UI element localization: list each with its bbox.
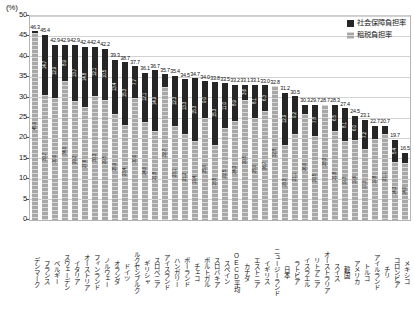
bar-column[interactable]: 45.946.3 [32,16,38,220]
bar-column[interactable]: 21.120.7 [382,16,388,220]
bar-column[interactable]: 19.38.127.4 [342,16,348,220]
bar-column[interactable]: 32.832.8 [272,16,278,220]
bar-segment-social [382,126,388,134]
bar-segment-tax-value: 30.3 [93,154,98,162]
bar-column[interactable]: 24.012.136.1 [142,16,148,220]
bar-stack: 28.3 [322,105,328,220]
bar-segment-social-value: 6.0 [353,125,358,131]
bar-segment-social-value: 12.9 [53,67,58,75]
bar-segment-social: 6.0 [352,116,358,140]
bar-segment-tax: 29.5 [102,100,108,220]
bar-column[interactable]: 30.312.142.4 [92,16,98,220]
bar-segment-social-value: 12.9 [283,115,288,123]
bar-segment-tax: 19.6 [352,140,358,220]
bar-segment-social: 13.3 [182,79,188,133]
bar-column[interactable]: 21.213.334.5 [182,16,188,220]
x-axis-label: スロベニア [149,224,159,320]
bar-column[interactable]: 17.37.223.1 [362,16,368,220]
bar-column[interactable]: 14.35.419.7 [392,16,398,220]
bar-segment-social-value: 14.9 [153,97,158,105]
bar-segment-social: 15.3 [192,78,198,140]
x-axis-label: コロンビア [389,224,399,320]
bar-segment-tax: 18.3 [282,145,288,220]
bar-column[interactable]: 20.57.829.7 [312,16,318,220]
bar-segment-social: 6.5 [332,105,338,132]
y-axis-tick-label: 30 [5,93,27,101]
bar-column[interactable]: 25.08.133.1 [252,16,258,220]
x-axis-label: OECD平均 [229,224,239,320]
bar-segment-tax-value: 26.0 [303,163,308,171]
y-axis-tick-label: 45 [5,31,27,39]
bar-total-value: 28.7 [320,98,330,104]
bar-segment-tax-value: 22.5 [223,170,228,178]
bar-column[interactable]: 29.510.542.2 [102,16,108,220]
bar-stack: 29.510.5 [102,49,108,220]
legend-label-social: 社会保障負担率 [357,18,406,28]
bar-segment-tax-value: 19.6 [353,176,358,184]
bar-segment-social: 7.2 [362,120,368,149]
bar-column[interactable]: 29.213.742.9 [72,16,78,220]
bar-segment-tax-value: 21.8 [333,171,338,179]
bar-column[interactable]: 27.614.842.4 [82,16,88,220]
bar-segment-social-value: 10.5 [103,70,108,78]
bar-segment-tax-value: 25.0 [203,165,208,173]
bar-column[interactable]: 32.735.7 [162,16,168,220]
bar-segment-tax-value: 45.9 [33,122,38,130]
bar-column[interactable]: 23.112.335.4 [172,16,178,220]
bar-total-value: 22.7 [370,119,380,125]
bar-segment-social: 7.8 [312,105,318,137]
bar-column[interactable]: 29.53.633.1 [242,16,248,220]
x-axis-label: イギリス [259,224,269,320]
bar-segment-tax: 30.0 [132,98,138,220]
bar-column[interactable]: 28.328.7 [322,16,328,220]
bar-column[interactable]: 34.08.942.9 [62,16,68,220]
bar-column[interactable]: 18.312.931.2 [282,16,288,220]
bar-segment-social: 10.5 [102,49,108,100]
bar-segment-tax: 19.3 [342,141,348,220]
x-axis-label: ポーランド [179,224,189,320]
bar-stack: 34.08.9 [62,45,68,220]
bar-segment-tax: 17.3 [362,149,368,220]
bar-column[interactable]: 14.016.5 [402,16,408,220]
bar-total-value: 33.1 [240,78,250,84]
bar-column[interactable]: 30.714.745.4 [42,16,48,220]
bar-total-value: 20.7 [380,119,390,125]
bar-column[interactable]: 24.38.933.2 [232,16,238,220]
bar-column[interactable]: 30.07.737.7 [132,16,138,220]
bar-segment-tax-value: 23.4 [123,168,128,176]
bar-column[interactable]: 30.012.942.9 [52,16,58,220]
bar-column[interactable]: 21.19.230.5 [292,16,298,220]
bar-segment-tax-value: 23.1 [173,169,178,177]
bar-segment-tax-value: 18.5 [213,178,218,186]
bar-segment-tax-value: 19.4 [193,176,198,184]
bar-column[interactable]: 19.415.334.7 [192,16,198,220]
bar-column[interactable]: 26.76.333.0 [262,16,268,220]
bar-column[interactable]: 26.030.3 [302,16,308,220]
bar-stack: 30.012.9 [52,45,58,220]
bar-column[interactable]: 18.515.333.8 [212,16,218,220]
y-axis-tick-mark [26,178,29,179]
bar-segment-social-value: 14.8 [83,73,88,81]
bar-segment-tax-value: 24.3 [233,166,238,174]
bar-total-value: 30.3 [300,98,310,104]
bar-segment-social-value: 12.1 [143,93,148,101]
bar-column[interactable]: 21.86.528.3 [332,16,338,220]
bar-column[interactable]: 22.511.033.5 [222,16,228,220]
bar-column[interactable]: 21.814.936.7 [152,16,158,220]
bar-segment-social-value: 7.7 [133,79,138,85]
bar-segment-social: 14.8 [82,47,88,107]
x-axis-label: ベルギー [49,224,59,320]
bar-segment-tax: 29.2 [72,101,78,220]
bar-segment-tax-value: 30.0 [53,155,58,163]
bar-column[interactable]: 19.822.7 [372,16,378,220]
bar-column[interactable]: 23.415.338.7 [122,16,128,220]
x-axis-label: ニュージーランド [269,224,279,320]
bar-column[interactable]: 25.09.034.0 [202,16,208,220]
bar-stack: 18.515.3 [212,82,218,220]
y-axis-tick-mark [26,56,29,57]
bar-column[interactable]: 19.66.024.5 [352,16,358,220]
y-axis-tick-label: 10 [5,174,27,182]
bar-column[interactable]: 25.913.439.3 [112,16,118,220]
bar-segment-social: 11.0 [222,83,228,128]
bar-segment-tax-value: 26.7 [263,161,268,169]
